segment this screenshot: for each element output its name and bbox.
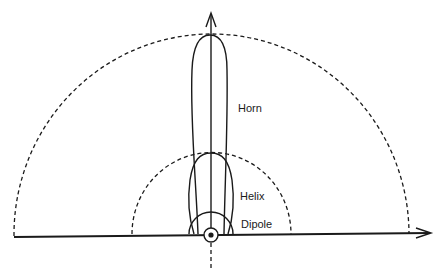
origin-dot-icon: [208, 232, 213, 237]
label-helix: Helix: [240, 190, 265, 202]
horizontal-axis: [14, 233, 430, 237]
label-horn: Horn: [238, 102, 262, 114]
radiation-pattern-diagram: Horn Helix Dipole: [0, 0, 442, 274]
horn-lobe: [192, 35, 228, 234]
label-dipole: Dipole: [241, 218, 272, 230]
